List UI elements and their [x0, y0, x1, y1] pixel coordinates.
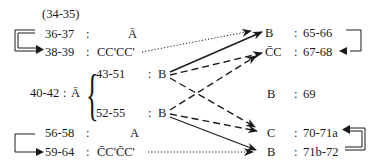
- separator: :: [86, 45, 89, 59]
- arrowhead-icon: [339, 47, 347, 55]
- repeat-bracket-36-38: [15, 30, 38, 51]
- right-label: B: [267, 145, 275, 159]
- separator: :: [148, 106, 151, 120]
- left-label: Ā: [128, 27, 137, 41]
- sub-label: B: [158, 106, 166, 120]
- right-range: 65-66: [303, 26, 332, 40]
- left-label: A: [130, 126, 139, 140]
- separator: :: [63, 86, 66, 100]
- separator: :: [294, 45, 297, 59]
- right-range: 67-68: [303, 45, 332, 59]
- right-label: C: [267, 126, 275, 140]
- repeat-bracket-65-67: [346, 30, 361, 51]
- sub-range: 52-55: [96, 106, 125, 120]
- separator: :: [148, 67, 151, 81]
- sub-range: 43-51: [96, 67, 125, 81]
- left-range: 56-58: [45, 126, 74, 140]
- arrowhead-icon: [36, 148, 44, 156]
- right-range: 70-71a: [303, 126, 338, 140]
- right-range: 71b-72: [303, 145, 338, 159]
- separator: :: [294, 145, 297, 159]
- left-label: C̄C'C̄C': [97, 145, 135, 159]
- separator: :: [86, 126, 89, 140]
- left-range: 40-42: [30, 86, 59, 100]
- separator: :: [294, 126, 297, 140]
- sub-label: B: [158, 67, 166, 81]
- left-range: 36-37: [45, 27, 74, 41]
- dotted-arrow-38-39-to-65-66: [142, 31, 251, 52]
- arrowhead-icon: [36, 45, 44, 54]
- right-label: B: [265, 26, 273, 40]
- dashed-arrow-43-51-to-67-68: [170, 53, 262, 75]
- repeat-bracket-56-59: [15, 134, 38, 152]
- separator: :: [294, 26, 297, 40]
- header-range: (34-35): [42, 7, 80, 21]
- solid-arrow-52-55-to-71b-72: [170, 117, 256, 150]
- solid-arrow-43-51-to-65-66: [170, 32, 262, 72]
- separator: :: [86, 145, 89, 159]
- left-range: 59-64: [45, 145, 74, 159]
- left-label: CC'CC': [97, 45, 135, 59]
- right-range: 69: [303, 87, 316, 101]
- arrowhead-icon: [342, 125, 350, 134]
- separator: :: [86, 27, 89, 41]
- right-label: B: [267, 87, 275, 101]
- left-range: 38-39: [45, 45, 74, 59]
- right-label: C̄C: [265, 45, 282, 59]
- separator: :: [294, 87, 297, 101]
- left-label: Ā: [71, 86, 80, 100]
